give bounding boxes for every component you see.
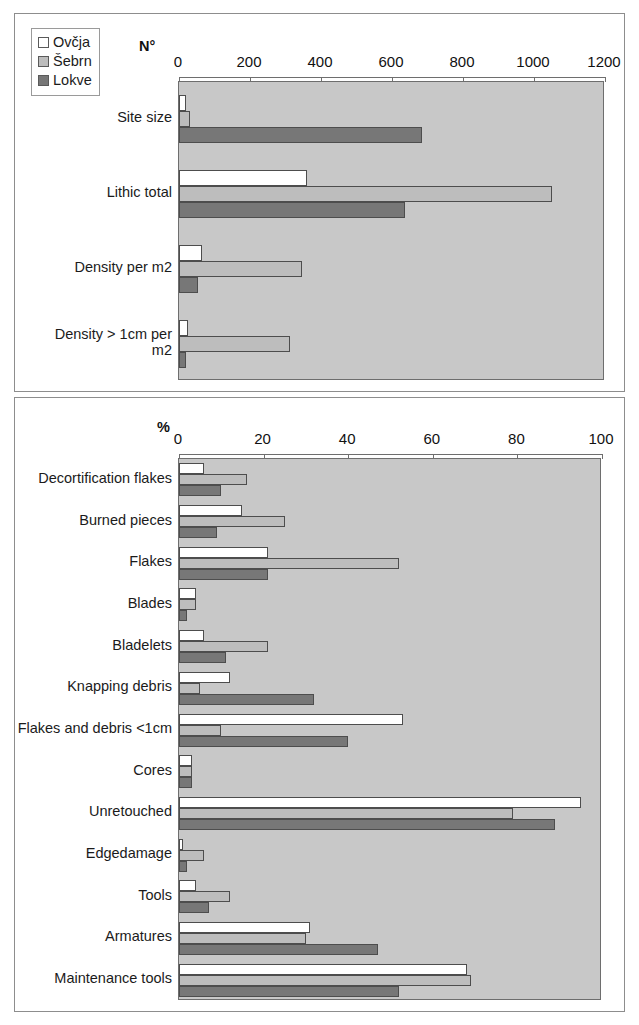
bar-šebrn-0	[179, 111, 190, 127]
axis-tick-label: 20	[254, 430, 271, 447]
legend-swatch-ovcja	[38, 37, 49, 48]
category-label: Armatures	[15, 928, 172, 945]
bar-lokve-2	[179, 277, 198, 293]
bar-lokve-9	[179, 861, 187, 872]
bar-šebrn-4	[179, 641, 268, 652]
category-label: Density > 1cm per m2	[15, 326, 172, 359]
axis-tick-label: 200	[236, 53, 261, 70]
axis-tick-label: 40	[339, 430, 356, 447]
axis-tick-label: 400	[307, 53, 332, 70]
axis-tick-label: 100	[588, 430, 613, 447]
bar-ovčja-0	[179, 463, 204, 474]
legend-item-2: Lokve	[38, 71, 92, 90]
bar-lokve-2	[179, 569, 268, 580]
axis-tick-labels-top: 020040060080010001200	[178, 53, 604, 73]
bar-ovčja-12	[179, 964, 467, 975]
bar-šebrn-3	[179, 599, 196, 610]
category-label: Knapping debris	[15, 678, 172, 695]
bar-ovčja-6	[179, 714, 403, 725]
axis-unit-bottom: %	[157, 419, 170, 435]
category-label: Unretouched	[15, 803, 172, 820]
bar-ovčja-10	[179, 880, 196, 891]
axis-tick-label: 80	[508, 430, 525, 447]
bar-šebrn-1	[179, 516, 285, 527]
legend-swatch-lokve	[38, 75, 49, 86]
category-label: Blades	[15, 595, 172, 612]
bar-šebrn-10	[179, 891, 230, 902]
bar-ovčja-0	[179, 95, 186, 111]
category-label: Lithic total	[15, 184, 172, 201]
bar-šebrn-9	[179, 850, 204, 861]
bar-ovčja-7	[179, 755, 192, 766]
bar-ovčja-3	[179, 588, 196, 599]
axis-line	[179, 77, 605, 78]
bar-lokve-6	[179, 736, 348, 747]
axis-tick-label: 800	[449, 53, 474, 70]
axis-unit-top: N°	[139, 38, 155, 54]
bar-ovčja-2	[179, 547, 268, 558]
plot-area-top	[178, 81, 604, 380]
bar-šebrn-3	[179, 336, 290, 352]
legend: Ovčja Šebrn Lokve	[31, 28, 100, 96]
chart-panel-percent: % 020406080100 Decortification flakesBur…	[14, 397, 625, 1012]
bar-šebrn-6	[179, 725, 221, 736]
category-label: Bladelets	[15, 637, 172, 654]
category-label: Edgedamage	[15, 845, 172, 862]
bar-ovčja-1	[179, 505, 242, 516]
bar-lokve-3	[179, 352, 186, 368]
bar-lokve-1	[179, 202, 405, 218]
bar-lokve-12	[179, 986, 399, 997]
category-label: Decortification flakes	[15, 470, 172, 487]
bar-lokve-0	[179, 485, 221, 496]
legend-label-2: Lokve	[53, 73, 92, 88]
bar-šebrn-1	[179, 186, 552, 202]
bar-šebrn-8	[179, 808, 513, 819]
axis-tickmark	[602, 454, 603, 459]
category-label: Flakes and debris <1cm	[15, 720, 172, 737]
category-label: Tools	[15, 887, 172, 904]
bar-ovčja-5	[179, 672, 230, 683]
axis-tickmark	[605, 77, 606, 82]
axis-tick-label: 60	[423, 430, 440, 447]
bar-lokve-8	[179, 819, 555, 830]
bar-ovčja-3	[179, 320, 188, 336]
bar-lokve-1	[179, 527, 217, 538]
bar-lokve-11	[179, 944, 378, 955]
bar-ovčja-2	[179, 245, 202, 261]
bar-ovčja-1	[179, 170, 307, 186]
axis-tick-label: 0	[174, 53, 182, 70]
legend-swatch-sebrn	[38, 56, 49, 67]
figure-root: Ovčja Šebrn Lokve N° 0200400600800100012…	[0, 0, 639, 1025]
axis-tick-label: 600	[378, 53, 403, 70]
bar-lokve-3	[179, 610, 187, 621]
bar-šebrn-5	[179, 683, 200, 694]
bar-šebrn-11	[179, 933, 306, 944]
bar-lokve-4	[179, 652, 226, 663]
category-label: Density per m2	[15, 259, 172, 276]
bar-lokve-5	[179, 694, 314, 705]
chart-panel-counts: Ovčja Šebrn Lokve N° 0200400600800100012…	[14, 13, 625, 392]
bar-šebrn-7	[179, 766, 192, 777]
bar-lokve-10	[179, 902, 209, 913]
axis-tick-labels-bottom: 020406080100	[178, 430, 601, 450]
bar-ovčja-9	[179, 839, 183, 850]
category-label: Site size	[15, 109, 172, 126]
legend-label-0: Ovčja	[53, 35, 90, 50]
plot-area-bottom	[178, 458, 601, 1000]
bar-ovčja-11	[179, 922, 310, 933]
category-label: Cores	[15, 762, 172, 779]
bar-ovčja-8	[179, 797, 581, 808]
legend-item-0: Ovčja	[38, 33, 92, 52]
category-label: Burned pieces	[15, 512, 172, 529]
category-label: Maintenance tools	[15, 970, 172, 987]
bar-šebrn-12	[179, 975, 471, 986]
bar-šebrn-2	[179, 558, 399, 569]
bar-šebrn-2	[179, 261, 302, 277]
bar-šebrn-0	[179, 474, 247, 485]
bar-lokve-0	[179, 127, 422, 143]
category-label: Flakes	[15, 553, 172, 570]
axis-tick-label: 1000	[516, 53, 549, 70]
bar-ovčja-4	[179, 630, 204, 641]
bar-lokve-7	[179, 777, 192, 788]
legend-label-1: Šebrn	[53, 54, 92, 69]
